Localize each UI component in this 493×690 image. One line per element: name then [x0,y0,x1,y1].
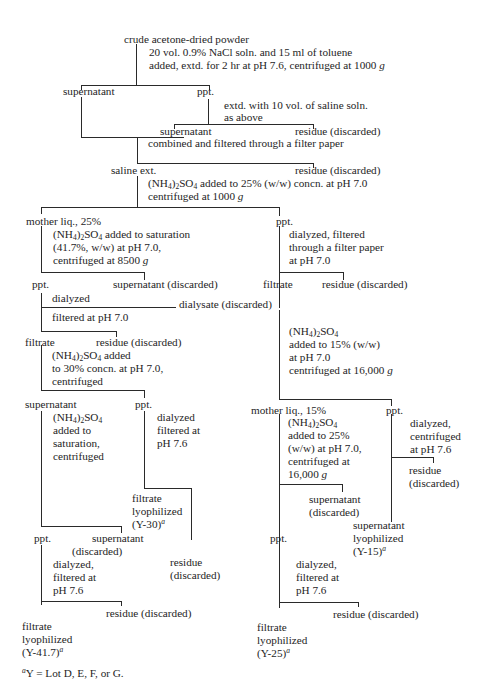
connector [81,97,82,137]
connector [41,226,42,272]
right-step3-line2: added to 25% [288,429,350,442]
step2-line2: as above [224,111,263,124]
right-supernatant-discarded-line2: (discarded) [309,506,359,519]
connector [41,345,42,390]
connector [41,307,176,308]
right-ppt-step-line1: dialyzed, [410,417,451,430]
right-supernatant-discarded-line1: supernatant [309,493,361,506]
left-dialysate-discarded: dialysate (discarded) [179,298,272,311]
left-step-line1: (NH4)2SO4 added to saturation [53,228,190,241]
right-step-line3: at pH 7.0 [289,254,330,267]
left-step3-line4: centrifuged [53,450,104,463]
left-step3-line1: (NH4)2SO4 [53,411,102,424]
left-step2-line2: to 30% concn. at pH 7.0, [52,362,163,375]
connector [41,526,122,527]
y30-residue-line1: residue [170,556,202,569]
left-step-line3: centrifuged at 8500 g [53,254,148,267]
connector [41,293,42,331]
connector [144,411,145,488]
left-filtrate: filtrate [25,336,55,349]
y417-line1: filtrate [22,620,52,633]
connector [41,601,122,602]
connector [137,137,138,163]
right-step2-line3: at pH 7.0 [289,351,330,364]
s1-supernatant: supernatant [63,85,115,98]
s3-residue: residue (discarded) [295,164,380,177]
connector [208,99,209,124]
combine-step: combined and filtered through a filter p… [148,137,344,150]
connector [41,272,145,273]
right-ppt2: ppt. [386,404,403,417]
connector [279,564,280,608]
connector [144,488,192,489]
footnote: aY = Lot D, E, F, or G. [22,667,124,680]
connector [391,457,434,458]
y30-line3: (Y-30)a [132,518,165,531]
connector [41,207,42,214]
connector [136,44,137,85]
y417-line3: (Y-41.7)a [22,646,63,659]
y15-line1: supernatant [353,519,405,532]
footnote-text: Y = Lot D, E, F, or G. [26,667,124,679]
step3-line1: (NH4)2SO4 added to 25% (w/w) concn. at p… [148,177,367,190]
right-ppt-step-line2: centrifuged [410,430,461,443]
right-step2-line1: (NH4)2SO4 [289,325,338,338]
left-supernatant-discarded: supernatant (discarded) [113,278,218,291]
left-ppt-step-line1: dialyzed [157,411,195,424]
y25-line2: lyophilized [257,634,307,647]
right-step3-line5: 16,000 g [288,468,327,481]
left-mother-liq: mother liq., 25% [26,215,101,228]
y25-line3: (Y-25)a [257,647,290,660]
connector [137,176,138,207]
y30-residue-line2: (discarded) [170,569,220,582]
left-supernatant-discarded2-line2: (discarded) [72,545,122,558]
left-ppt-step-line2: filtered at [157,424,200,437]
right-step4-line2: filtered at [296,571,339,584]
y417-line2: lyophilized [22,633,72,646]
connector [279,399,392,400]
connector [279,602,359,603]
right-step4-line3: pH 7.6 [296,584,326,597]
right-residue-discarded: residue (discarded) [322,278,407,291]
right-filtrate: filtrate [263,278,293,291]
start-node: crude acetone-dried powder [124,33,249,46]
left-filtered: filtered at pH 7.0 [52,311,128,324]
left-step3-line2: added to [53,424,91,437]
right-step4-line1: dialyzed, [296,558,337,571]
left-residue-discarded: residue (discarded) [96,336,181,349]
saline-ext: saline ext. [111,164,156,177]
connector [144,390,145,398]
left-residue-discarded2: residue (discarded) [106,607,191,620]
connector [279,272,344,273]
step1-line1: 20 vol. 0.9% NaCl soln. and 15 ml of tol… [149,46,352,59]
step1-line2: added, extd. for 2 hr at pH 7.6, centrif… [149,59,385,72]
right-step3-line4: centrifuged at [288,455,350,468]
connector [137,163,314,164]
left-step4-line2: filtered at [53,571,96,584]
connector [391,414,392,522]
left-dialyzed: dialyzed [52,292,90,305]
right-step-line1: dialyzed, filtered [289,228,365,241]
connector [41,545,42,605]
y25-line1: filtrate [257,621,287,634]
left-step-line2: (41.7%, w/w) at pH 7.0, [53,241,161,254]
right-step2-line4: centrifuged at 16,000 g [289,364,393,377]
connector [279,226,280,308]
s1-ppt: ppt. [197,85,214,98]
y15-line3: (Y-15)a [353,545,386,558]
connector [279,310,280,399]
right-step3-line1: (NH4)2SO4 [288,416,337,429]
connector [41,390,145,391]
left-ppt2: ppt. [135,398,152,411]
left-step3-line3: saturation, [53,437,100,450]
right-residue-discarded2: residue (discarded) [333,608,418,621]
left-supernatant: supernatant [25,398,77,411]
right-step-line2: through a filter paper [289,241,384,254]
right-ppt-residue-line1: residue [409,464,441,477]
left-ppt3: ppt. [34,532,51,545]
right-ppt-step-line3: at pH 7.6 [410,443,451,456]
left-step2-line1: (NH4)2SO4 added [52,349,131,362]
right-step3-line3: (w/w) at pH 7.0, [288,442,362,455]
connector [121,601,122,606]
left-step4-line1: dialyzed, [53,558,94,571]
